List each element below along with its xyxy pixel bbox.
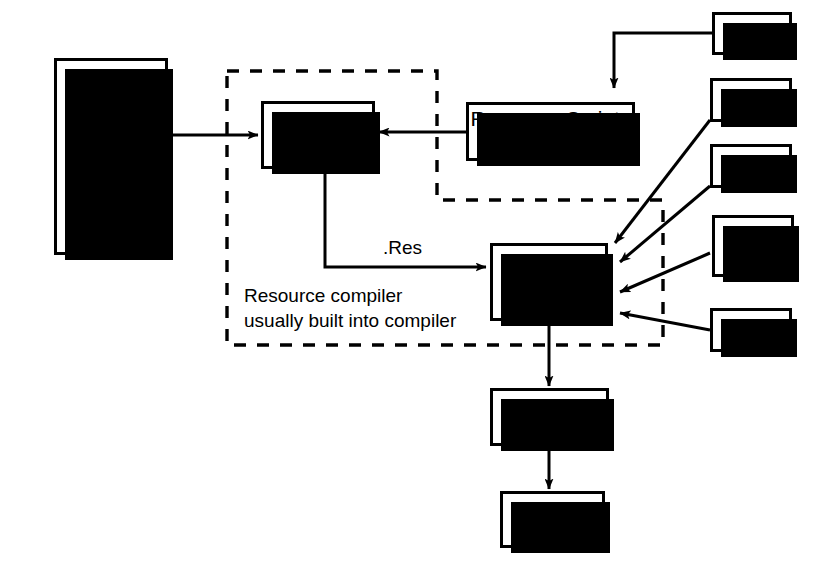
edge-label-res: .Res bbox=[383, 237, 422, 259]
node-c-cpp-label: .c .cpp bbox=[733, 221, 773, 271]
node-lib[interactable]: .Lib bbox=[710, 78, 792, 122]
node-h-top[interactable]: .h bbox=[712, 12, 792, 55]
node-lib-label: .Lib bbox=[734, 88, 768, 113]
list-item: CUR bbox=[70, 150, 165, 175]
node-resource-scripts[interactable]: Resource Scripts .RC bbox=[466, 102, 635, 161]
list-item: ICO bbox=[70, 125, 165, 150]
edge-c-cpp-to-c-compiler bbox=[620, 253, 710, 292]
ellipsis-dot bbox=[70, 222, 165, 244]
ellipsis-dot bbox=[70, 244, 165, 266]
edge-objs-to-c-compiler bbox=[620, 186, 710, 262]
node-c-compiler-label: C/C++ Compiler bbox=[507, 257, 591, 307]
node-linker-label: Linker bbox=[521, 405, 578, 430]
node-linker[interactable]: Linker bbox=[490, 388, 609, 446]
resources-title: Resources bbox=[70, 73, 165, 99]
list-item: BMP bbox=[70, 100, 165, 125]
node-resources[interactable]: Resources BMP ICO CUR WAV bbox=[54, 58, 168, 255]
node-c-cpp[interactable]: .c .cpp bbox=[712, 215, 794, 277]
node-h-top-label: .h bbox=[743, 21, 761, 46]
node-resource-compiler[interactable]: Resource Compiler bbox=[261, 101, 375, 169]
edge-h-to-resource-scripts bbox=[614, 33, 712, 88]
diagram-canvas: Resources BMP ICO CUR WAV Resource Compi… bbox=[0, 0, 827, 581]
resources-list: BMP ICO CUR WAV bbox=[70, 100, 165, 267]
node-resource-scripts-label: Resource Scripts .RC bbox=[471, 107, 631, 157]
node-objs[interactable]: .Objs bbox=[710, 144, 792, 188]
dashed-group-note: Resource compiler usually built into com… bbox=[244, 284, 456, 333]
node-objs-label: .Objs bbox=[726, 154, 775, 179]
node-exe[interactable]: .EXE bbox=[500, 491, 605, 548]
ellipsis-dot bbox=[70, 200, 165, 222]
node-c-compiler[interactable]: C/C++ Compiler bbox=[490, 243, 608, 321]
node-exe-label: .EXE bbox=[529, 507, 577, 532]
node-h-bottom[interactable]: .h bbox=[710, 308, 792, 352]
node-h-bottom-label: .h bbox=[742, 318, 760, 343]
node-resource-compiler-label: Resource Compiler bbox=[273, 110, 363, 160]
edge-h-bottom-to-c-compiler bbox=[620, 313, 710, 330]
list-item: WAV bbox=[70, 175, 165, 200]
